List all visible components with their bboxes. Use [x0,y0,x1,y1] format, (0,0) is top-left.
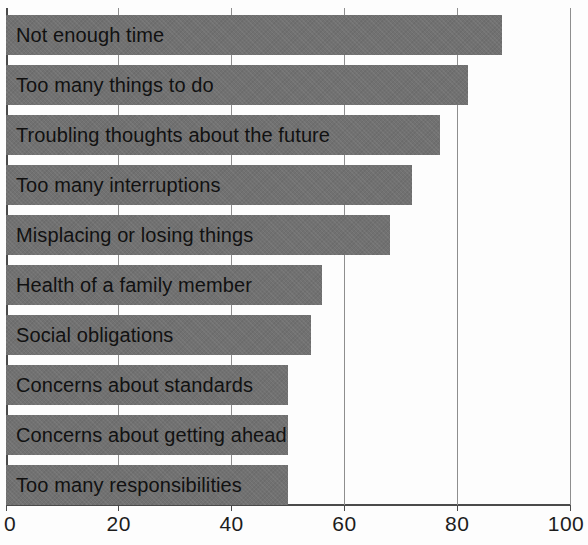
bar-row[interactable]: Concerns about getting ahead [0,415,564,455]
bar-row[interactable]: Social obligations [0,315,564,355]
bar-category-label: Too many interruptions [16,165,221,205]
bar-category-label: Too many things to do [16,65,214,105]
bar-row[interactable]: Health of a family member [0,265,564,305]
bar-row[interactable]: Too many responsibilities [0,465,564,505]
x-tick-label-40: 40 [219,512,243,536]
tick-mark-60 [344,506,345,511]
tick-mark-80 [457,506,458,511]
x-tick-label-60: 60 [332,512,356,536]
tick-mark-40 [231,506,232,511]
tick-mark-0 [6,506,7,511]
tick-mark-20 [118,506,119,511]
horizontal-bar-chart: 020406080100 Not enough timeToo many thi… [0,0,588,545]
bar-category-label: Too many responsibilities [16,465,242,505]
bar-row[interactable]: Not enough time [0,15,564,55]
x-tick-label-0: 0 [4,512,16,536]
bar-row[interactable]: Concerns about standards [0,365,564,405]
bar-category-label: Troubling thoughts about the future [16,115,330,155]
bar-row[interactable]: Misplacing or losing things [0,215,564,255]
bar-row[interactable]: Troubling thoughts about the future [0,115,564,155]
bar-category-label: Misplacing or losing things [16,215,253,255]
bar-category-label: Not enough time [16,15,164,55]
bar-category-label: Social obligations [16,315,173,355]
clipped-title-remnant [120,0,420,4]
bar-category-label: Concerns about getting ahead [16,415,287,455]
gridline-100 [570,8,571,505]
bar-category-label: Concerns about standards [16,365,253,405]
x-tick-label-80: 80 [445,512,469,536]
tick-mark-100 [570,506,571,511]
bar-category-label: Health of a family member [16,265,252,305]
x-tick-label-20: 20 [107,512,131,536]
bar-row[interactable]: Too many interruptions [0,165,564,205]
x-tick-label-100: 100 [548,512,585,536]
bar-row[interactable]: Too many things to do [0,65,564,105]
